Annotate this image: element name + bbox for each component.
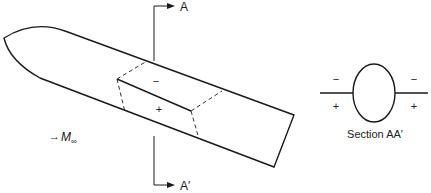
section-caption: Section AA′ [347, 128, 403, 140]
section-sign-left-lower: + [333, 100, 339, 112]
section-sign-right-upper: − [411, 73, 417, 85]
freestream-mach-symbol: M [61, 130, 71, 144]
cut-arrow-bottom-icon [167, 182, 175, 188]
wing-root-bottom-right [191, 111, 199, 139]
section-body-ellipse [353, 64, 395, 122]
section-sign-left-upper: − [333, 73, 339, 85]
section-sign-right-lower: + [411, 100, 417, 112]
wing-root-top-right [191, 91, 222, 111]
upper-pressure-sign: − [153, 75, 159, 87]
freestream-arrow-icon: → [49, 130, 60, 142]
lower-pressure-sign: + [156, 103, 162, 115]
cut-arrow-top-icon [167, 3, 175, 9]
slender-body-diagram: − + A A′ → M ∞ − + − + Section AA′ [0, 0, 431, 193]
cut-label-bottom: A′ [180, 179, 191, 193]
wing-root-top-left [117, 61, 147, 79]
fuselage-outline [4, 27, 294, 167]
cut-label-top: A [180, 0, 188, 14]
freestream-mach-subscript: ∞ [71, 137, 77, 146]
